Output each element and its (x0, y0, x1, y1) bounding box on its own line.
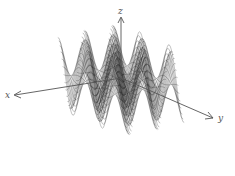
z-axis-label: z (117, 6, 123, 16)
surface-curve (60, 46, 119, 119)
surface-curve (59, 41, 118, 125)
x-axis-label: x (5, 90, 10, 100)
surface-plot: z x y (0, 0, 235, 176)
y-axis-label: y (217, 113, 224, 123)
surface-curve (124, 36, 183, 120)
surface-curve (123, 41, 182, 114)
